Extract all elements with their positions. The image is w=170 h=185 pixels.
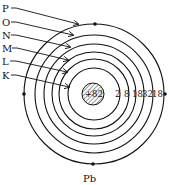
label-p: P — [2, 3, 9, 14]
arrow-p — [11, 8, 78, 24]
electron-dot — [91, 162, 95, 166]
shell-l-count: 8 — [124, 89, 129, 99]
electron-dot — [22, 92, 26, 96]
label-k: K — [2, 70, 10, 81]
label-l: L — [2, 56, 9, 67]
nucleus-charge: +82 — [85, 89, 103, 99]
label-m: M — [2, 43, 12, 54]
shell-k-count: 2 — [115, 89, 120, 99]
shell-o-count: 18 — [152, 89, 163, 99]
arrow-n — [11, 35, 70, 47]
label-o: O — [2, 17, 10, 28]
arrow-k — [11, 75, 69, 87]
arrow-l — [10, 61, 67, 72]
arrow-o — [11, 22, 73, 35]
element-symbol: Pb — [83, 173, 96, 184]
atom-diagram: +82 2 8 18 32 18 P O N M L K Pb — [0, 0, 170, 185]
label-n: N — [2, 30, 11, 41]
electron-dot — [93, 22, 97, 26]
electron-dot — [163, 92, 167, 96]
